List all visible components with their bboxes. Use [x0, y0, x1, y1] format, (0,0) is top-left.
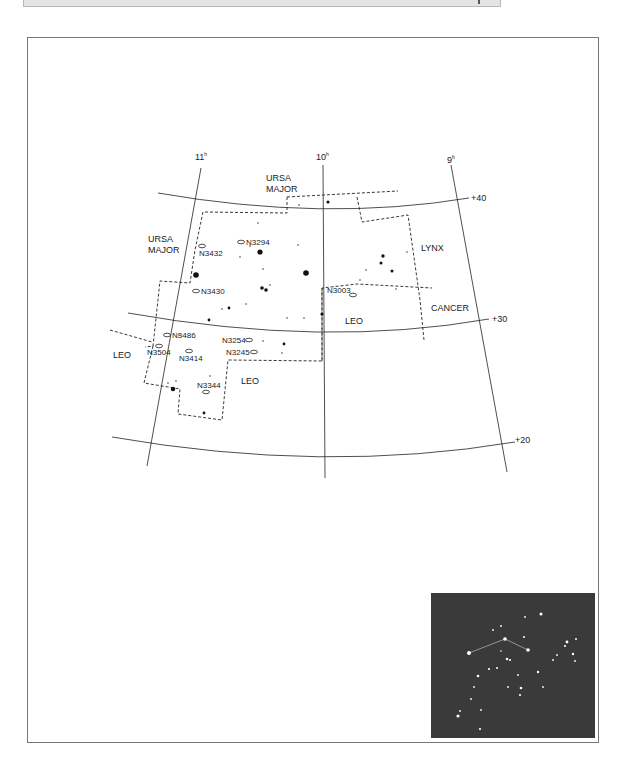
dec-arc-30 — [128, 313, 489, 332]
dec-label-30: +30 — [492, 314, 507, 324]
ra-line-10h — [323, 165, 325, 478]
dec-label-20: +20 — [515, 435, 530, 445]
ra-label-10h: 10h — [316, 151, 329, 162]
constellation-label-ursa-major-left-2: MAJOR — [148, 245, 180, 255]
galaxy-markers — [156, 240, 357, 394]
constellation-label-lynx: LYNX — [421, 243, 444, 253]
constellation-boundaries — [110, 191, 432, 420]
dec-arc-20 — [112, 437, 515, 457]
galaxy-label-n3245: N3245 — [226, 348, 250, 357]
galaxy-label-n3486: N3486 — [172, 331, 196, 340]
sky-photo-inset — [431, 593, 595, 738]
galaxy-label-n3430: N3430 — [201, 287, 225, 296]
ra-line-11h — [147, 168, 201, 466]
sky-photo-stars — [431, 593, 595, 738]
constellation-label-ursa-major-top-1: URSA — [266, 173, 291, 183]
galaxy-label-n3003: N3003 — [327, 286, 351, 295]
constellation-label-leo-bottom: LEO — [241, 376, 259, 386]
constellation-label-cancer: CANCER — [431, 303, 470, 313]
galaxy-label-n3414: N3414 — [179, 354, 203, 363]
ra-label-11h: 11h — [195, 151, 207, 162]
constellation-label-ursa-major-top-2: MAJOR — [266, 184, 298, 194]
constellation-label-ursa-major-left-1: URSA — [148, 234, 173, 244]
galaxy-label-n3504: N3504 — [147, 348, 171, 357]
ra-label-9h: 9h — [447, 154, 455, 165]
galaxy-label-n3432: N3432 — [199, 249, 223, 258]
constellation-label-leo-left: LEO — [113, 350, 131, 360]
constellation-label-leo-center: LEO — [345, 316, 363, 326]
galaxy-label-n3344: N3344 — [197, 381, 221, 390]
dec-label-40: +40 — [471, 193, 486, 203]
galaxy-label-n3254: N3254 — [222, 336, 246, 345]
